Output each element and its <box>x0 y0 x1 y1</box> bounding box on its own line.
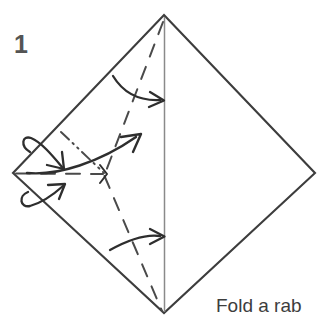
step-number: 1 <box>14 32 28 57</box>
caption-text: Fold a rab <box>216 296 302 316</box>
origami-figure-svg <box>0 0 322 318</box>
